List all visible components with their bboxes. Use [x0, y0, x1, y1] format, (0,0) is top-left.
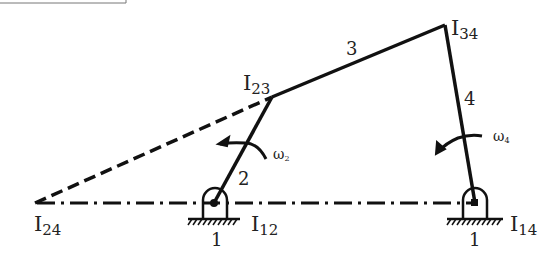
label-i14: I14: [510, 214, 537, 238]
pivot-support-left: [188, 188, 240, 225]
label-omega2: ω2: [273, 147, 290, 163]
label-i12: I12: [251, 214, 278, 238]
label-i24: I24: [34, 214, 61, 238]
label-ground-right: 1: [469, 231, 480, 249]
dashed-line-i24-i23: [35, 97, 272, 203]
label-ground-left: 1: [211, 231, 222, 249]
label-link-2: 2: [238, 170, 249, 188]
label-omega4: ω4: [493, 129, 510, 145]
link-3: [272, 25, 445, 97]
omega2-arrow-icon: [218, 137, 266, 159]
link-4: [445, 25, 475, 203]
label-link-4: 4: [464, 90, 475, 108]
frame-border: [0, 0, 126, 3]
label-i34: I34: [451, 18, 478, 42]
label-link-3: 3: [346, 40, 357, 58]
omega4-arrow-icon: [436, 135, 482, 154]
label-i23: I23: [243, 73, 270, 97]
